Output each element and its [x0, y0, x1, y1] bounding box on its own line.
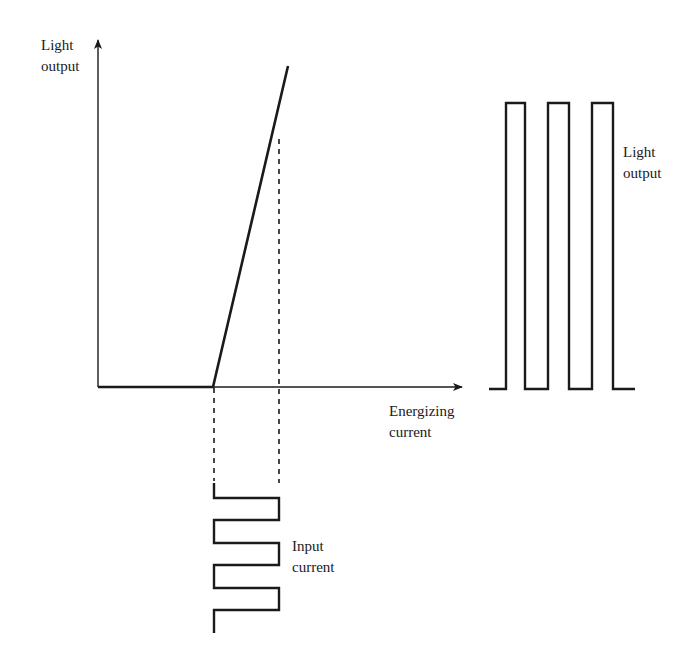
input-current-label-line1: Input [292, 536, 334, 557]
x-axis-label: Energizing current [389, 401, 455, 443]
input-current-waveform [214, 483, 279, 633]
y-axis-label: Light output [41, 35, 79, 77]
x-axis-label-line2: current [389, 422, 455, 443]
light-output-label: Light output [623, 142, 661, 184]
light-output-waveform [489, 103, 635, 389]
y-axis-label-line2: output [41, 56, 79, 77]
light-output-label-line2: output [623, 163, 661, 184]
input-current-label: Input current [292, 536, 334, 578]
transfer-curve [98, 66, 288, 387]
y-axis-label-line1: Light [41, 35, 79, 56]
light-output-label-line1: Light [623, 142, 661, 163]
input-current-label-line2: current [292, 557, 334, 578]
led-modulation-diagram [0, 0, 700, 665]
x-axis-label-line1: Energizing [389, 401, 455, 422]
